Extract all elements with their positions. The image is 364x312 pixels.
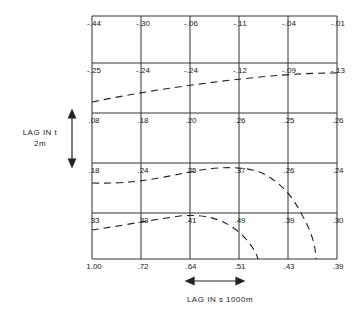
- contour-upper: [92, 73, 337, 102]
- x-axis-label: LAG IN s 1000m: [180, 295, 260, 304]
- contour-lower: [92, 215, 258, 259]
- grid-value: -.24: [184, 66, 198, 75]
- grid-value: .26: [234, 116, 245, 125]
- grid-value: -.01: [331, 19, 345, 28]
- grid-value: .39: [332, 262, 343, 271]
- grid-value: .26: [283, 166, 294, 175]
- grid-value: .33: [88, 216, 99, 225]
- grid-value: -.04: [282, 19, 296, 28]
- grid-value: .37: [234, 166, 245, 175]
- grid-value: -.25: [87, 66, 101, 75]
- grid-value: .72: [137, 262, 148, 271]
- grid-value: .26: [332, 116, 343, 125]
- correlation-grid-diagram: [0, 0, 364, 312]
- y-axis-label-line1: LAG IN t: [20, 128, 60, 137]
- grid-value: -.30: [136, 19, 150, 28]
- grid-value: -.09: [282, 66, 296, 75]
- grid-value: .51: [234, 262, 245, 271]
- vertical-double-arrow-icon: [69, 110, 76, 167]
- grid-value: -.12: [233, 66, 247, 75]
- grid-value: -.11: [233, 19, 246, 28]
- grid-value: .43: [283, 262, 294, 271]
- grid-value: -.24: [136, 66, 150, 75]
- grid-value: .08: [88, 116, 99, 125]
- y-axis-label-line2: 2m: [20, 139, 60, 148]
- grid-value: -.13: [331, 66, 345, 75]
- horizontal-double-arrow-icon: [186, 278, 244, 285]
- grid-value: .64: [185, 262, 196, 271]
- grid-value: 1.00: [86, 262, 102, 271]
- grid-value: -.44: [87, 19, 101, 28]
- grid-value: .25: [185, 166, 196, 175]
- grid-value: .49: [234, 216, 245, 225]
- grid-value: -.06: [184, 19, 198, 28]
- grid-lines: [92, 16, 337, 259]
- grid-value: .24: [332, 166, 343, 175]
- grid-value: .24: [137, 166, 148, 175]
- grid-value: .41: [185, 216, 196, 225]
- grid-value: .18: [88, 166, 99, 175]
- grid-value: .18: [137, 116, 148, 125]
- grid-value: .33: [137, 216, 148, 225]
- grid-value: .20: [185, 116, 196, 125]
- y-axis-label: LAG IN t 2m: [20, 128, 60, 148]
- grid-value: .39: [283, 216, 294, 225]
- grid-value: .25: [283, 116, 294, 125]
- grid-value: .30: [332, 216, 343, 225]
